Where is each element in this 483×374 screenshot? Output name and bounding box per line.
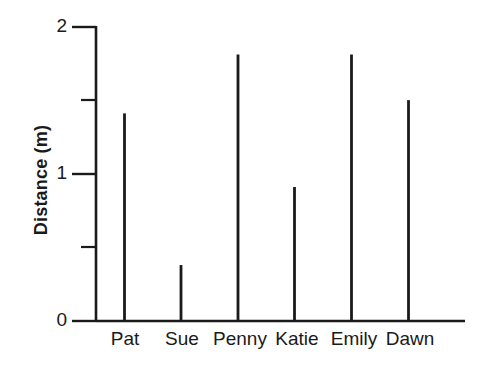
y-tick-label-2: 2 [56, 15, 67, 36]
bar-chart: Distance (m) 0 1 2 Pat Sue Penny Katie E… [0, 0, 483, 374]
y-tick-label-1: 1 [56, 162, 67, 183]
x-label-dawn: Dawn [386, 328, 435, 349]
x-label-katie: Katie [275, 328, 318, 349]
x-label-pat: Pat [111, 328, 140, 349]
x-label-sue: Sue [165, 328, 199, 349]
x-label-emily: Emily [331, 328, 378, 349]
y-axis-title: Distance (m) [31, 125, 51, 235]
chart-canvas: Distance (m) 0 1 2 Pat Sue Penny Katie E… [0, 0, 483, 374]
y-tick-label-0: 0 [56, 309, 67, 330]
x-label-penny: Penny [213, 328, 267, 349]
